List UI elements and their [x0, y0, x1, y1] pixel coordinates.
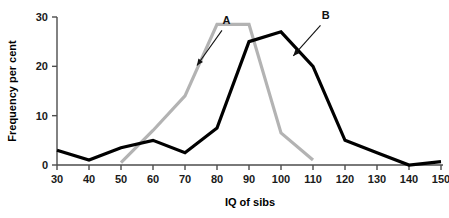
x-tick-label: 100	[272, 173, 290, 185]
line-chart: 0102030 30405060708090100110120130140150…	[0, 0, 449, 218]
x-tick-label: 30	[51, 173, 63, 185]
x-tick-label: 40	[83, 173, 95, 185]
x-tick-label: 110	[304, 173, 322, 185]
x-tick-label: 120	[336, 173, 354, 185]
series-label-a: A	[223, 14, 231, 26]
y-tick-label: 0	[42, 159, 48, 171]
x-tick-label: 70	[179, 173, 191, 185]
chart-figure: 0102030 30405060708090100110120130140150…	[0, 0, 449, 218]
y-tick-label: 10	[36, 110, 48, 122]
x-tick-label: 60	[147, 173, 159, 185]
x-axis-title: IQ of sibs	[225, 196, 275, 208]
x-tick-label: 50	[115, 173, 127, 185]
series-label-b: B	[322, 9, 330, 21]
y-tick-label: 30	[36, 11, 48, 23]
x-tick-label: 80	[211, 173, 223, 185]
y-tick-label: 20	[36, 60, 48, 72]
x-tick-label: 150	[432, 173, 449, 185]
x-tick-label: 130	[368, 173, 386, 185]
y-axis-title: Frequency per cent	[6, 40, 18, 142]
x-tick-label: 140	[400, 173, 418, 185]
x-tick-label: 90	[243, 173, 255, 185]
